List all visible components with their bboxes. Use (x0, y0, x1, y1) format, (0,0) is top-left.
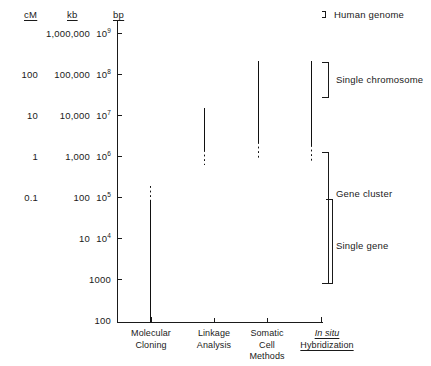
column-header-kb: kb (67, 9, 78, 20)
resolution-range-chart: cM kb bp 100 10 1 0.1 1,000,000 100,000 … (0, 0, 431, 366)
bar-molecular-cloning-solid (150, 200, 151, 322)
y-axis-tick (118, 156, 122, 157)
x-axis-tick (214, 318, 215, 323)
method-line-3: Methods (231, 351, 303, 363)
bar-molecular-cloning-dashed (150, 186, 151, 201)
bar-in-situ-hybridization-dashed (311, 145, 312, 161)
y-axis-tick (118, 115, 122, 116)
bp-tick-label: 106 (76, 151, 111, 162)
bracket-single-chromosome (322, 62, 329, 98)
y-axis-tick (118, 279, 122, 280)
bracket-human-genome (322, 11, 326, 18)
cm-tick-label: 0.1 (0, 192, 38, 203)
bar-somatic-cell-methods-dashed (258, 142, 259, 158)
bp-tick-label: 105 (76, 192, 111, 203)
bp-tick-label: 107 (76, 110, 111, 121)
method-line-1: In situ (283, 328, 371, 340)
column-header-cm: cM (24, 9, 37, 20)
annotation-label-single-gene: Single gene (336, 240, 388, 251)
bar-somatic-cell-methods-solid (258, 61, 259, 143)
x-category-label-in-situ-hybridization: In situ Hybridization (283, 328, 371, 351)
bp-tick-label: 108 (76, 69, 111, 80)
y-axis-line (117, 20, 118, 323)
bp-tick-label: 109 (76, 28, 111, 39)
y-axis-tick (118, 197, 122, 198)
cm-tick-label: 10 (0, 110, 38, 121)
bp-tick-label: 104 (76, 233, 111, 244)
bar-linkage-analysis-dashed (204, 150, 205, 165)
method-line-2: Hybridization (283, 340, 371, 352)
bar-linkage-analysis-solid (204, 108, 205, 151)
y-axis-tick (118, 33, 122, 34)
y-axis-tick (118, 238, 122, 239)
cm-tick-label: 100 (0, 69, 38, 80)
bp-tick-label: 1000 (70, 274, 111, 285)
bp-tick-label: 100 (70, 315, 111, 326)
x-axis-line (117, 322, 323, 323)
bar-in-situ-hybridization-solid (311, 61, 312, 146)
x-axis-tick (267, 318, 268, 323)
annotation-label-single-chromosome: Single chromosome (336, 74, 423, 85)
x-axis-tick (321, 317, 322, 322)
cm-tick-label: 1 (0, 151, 38, 162)
annotation-label-gene-cluster: Gene cluster (336, 188, 392, 199)
bracket-single-gene (326, 199, 333, 284)
column-header-bp: bp (113, 9, 124, 20)
annotation-label-human-genome: Human genome (334, 9, 404, 20)
y-axis-tick (118, 74, 122, 75)
